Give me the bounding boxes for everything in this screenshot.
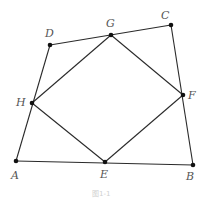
label-f: F bbox=[187, 89, 196, 102]
label-d: D bbox=[44, 27, 54, 40]
label-b: B bbox=[185, 170, 194, 183]
point-e bbox=[103, 160, 108, 165]
point-f bbox=[181, 93, 186, 98]
point-g bbox=[109, 33, 114, 38]
segment-fg bbox=[111, 35, 183, 95]
label-h: H bbox=[15, 96, 26, 109]
label-e: E bbox=[99, 168, 108, 181]
point-a bbox=[14, 159, 19, 164]
label-c: C bbox=[161, 9, 170, 22]
point-h bbox=[30, 101, 35, 106]
segment-gh bbox=[32, 35, 111, 103]
point-d bbox=[48, 43, 53, 48]
label-a: A bbox=[10, 169, 19, 182]
figure-caption: 图1-1 bbox=[92, 190, 110, 198]
geometry-diagram: A B C D E F G H 图1-1 bbox=[0, 0, 210, 199]
point-c bbox=[169, 23, 174, 28]
label-g: G bbox=[106, 17, 115, 30]
segment-ef bbox=[105, 95, 183, 162]
segment-he bbox=[32, 103, 105, 162]
point-b bbox=[191, 163, 196, 168]
